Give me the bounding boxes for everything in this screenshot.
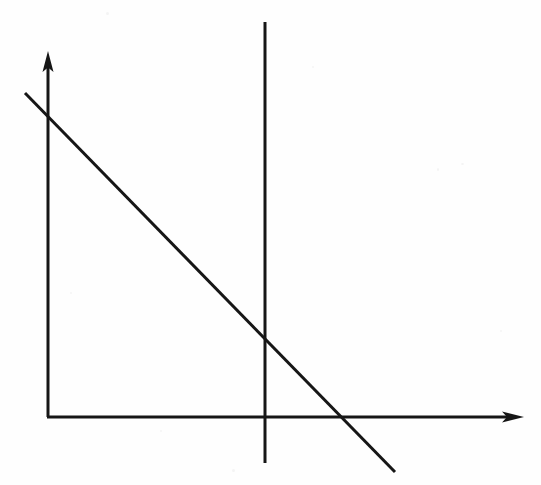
coordinate-plot-svg	[0, 0, 541, 485]
figure-canvas	[0, 0, 541, 485]
downward-sloping-line	[25, 93, 395, 472]
